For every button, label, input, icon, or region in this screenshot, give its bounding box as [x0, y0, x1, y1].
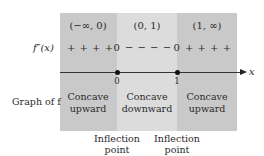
concavity-line: Concave — [67, 91, 108, 103]
interval-label: (1, ∞) — [193, 21, 222, 31]
critical-point-dot — [115, 70, 120, 75]
critical-point-dot — [175, 70, 180, 75]
annotation-line: point — [94, 144, 140, 155]
x-axis-label: x — [249, 67, 255, 77]
arrow-right-icon — [240, 69, 247, 75]
annotation-line: point — [154, 144, 200, 155]
concavity-line: downward — [122, 103, 172, 115]
zero-value: 0 — [114, 43, 121, 53]
concavity-label: Concave upward — [186, 91, 227, 115]
concavity-line: upward — [186, 103, 227, 115]
x-axis-line — [60, 72, 242, 73]
zero-value: 0 — [174, 43, 181, 53]
graph-row-label: Graph of f — [12, 97, 61, 107]
second-derivative-label: f″(x) — [33, 43, 54, 53]
sign-values: + + + + — [67, 43, 114, 53]
sign-values: + + + + — [185, 43, 232, 53]
sign-values: − − − − — [125, 43, 172, 53]
tick-label: 1 — [174, 77, 179, 86]
inflection-point-label: Inflection point — [94, 133, 140, 155]
interval-label: (−∞, 0) — [69, 21, 106, 31]
interval-label: (0, 1) — [134, 21, 161, 31]
concavity-line: Concave — [122, 91, 172, 103]
tick-label: 0 — [114, 77, 119, 86]
concavity-line: Concave — [186, 91, 227, 103]
annotation-line: Inflection — [154, 133, 200, 144]
concavity-label: Concave upward — [67, 91, 108, 115]
inflection-point-label: Inflection point — [154, 133, 200, 155]
annotation-line: Inflection — [94, 133, 140, 144]
concavity-line: upward — [67, 103, 108, 115]
concavity-label: Concave downward — [122, 91, 172, 115]
